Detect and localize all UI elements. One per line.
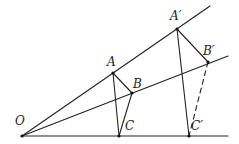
segment-a-b bbox=[113, 73, 132, 93]
point-b bbox=[130, 91, 133, 94]
label-a2: A′ bbox=[169, 9, 182, 23]
label-c: C bbox=[125, 119, 134, 133]
label-b: B bbox=[132, 77, 142, 91]
label-a: A bbox=[106, 55, 116, 69]
homothety-diagram: OABCA′B′C′ bbox=[0, 0, 239, 144]
segment-a2-c2 bbox=[177, 29, 189, 136]
label-c2: C′ bbox=[191, 119, 203, 133]
point-c2 bbox=[187, 134, 190, 137]
label-b2: B′ bbox=[202, 44, 215, 58]
point-a bbox=[111, 71, 114, 74]
point-a2 bbox=[175, 27, 178, 30]
point-o bbox=[20, 134, 23, 137]
point-b2 bbox=[206, 60, 209, 63]
label-o: O bbox=[15, 114, 25, 128]
segment-a-c bbox=[113, 73, 119, 136]
point-c bbox=[117, 134, 120, 137]
